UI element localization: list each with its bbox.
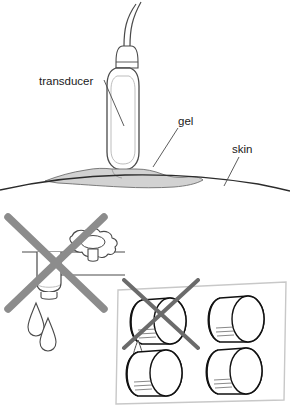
bottle-bottom-right bbox=[206, 348, 262, 394]
label-transducer: transducer bbox=[39, 75, 94, 87]
transducer-cable bbox=[124, 2, 141, 46]
panel-bottles-in-box bbox=[112, 278, 290, 412]
figure-canvas: transducer gel skin bbox=[0, 0, 290, 412]
bottle-bottom-left bbox=[126, 350, 182, 396]
label-gel: gel bbox=[178, 115, 193, 127]
bottle-top-right bbox=[208, 296, 264, 342]
label-skin: skin bbox=[232, 143, 252, 155]
gel-drips bbox=[28, 303, 56, 351]
panel-transducer-on-skin: transducer gel skin bbox=[0, 0, 290, 206]
transducer-body bbox=[107, 68, 139, 170]
leader-line-skin bbox=[224, 157, 239, 186]
panel-bottle-dripping-on-shelf bbox=[0, 205, 125, 355]
transducer-neck bbox=[116, 46, 138, 68]
leader-line-gel bbox=[153, 128, 178, 167]
